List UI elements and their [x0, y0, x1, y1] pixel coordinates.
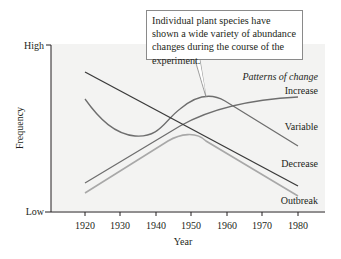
y-axis-label: Frequency [14, 107, 25, 149]
y-tick-label-high: High [24, 40, 44, 51]
callout-annotation: Individual plant species have shown a wi… [146, 10, 303, 60]
legend-variable: Variable [285, 121, 319, 132]
x-tick-label: 1970 [252, 220, 272, 231]
y-tick-label-low: Low [26, 206, 45, 217]
x-ticks [85, 212, 298, 216]
legend-outbreak: Outbreak [281, 195, 318, 206]
x-axis-label: Year [174, 236, 193, 247]
x-tick-label: 1940 [146, 220, 166, 231]
x-tick-label: 1950 [181, 220, 201, 231]
x-tick-label: 1920 [75, 220, 95, 231]
x-tick-label: 1980 [288, 220, 308, 231]
legend-title: Patterns of change [241, 71, 318, 82]
x-tick-label: 1960 [217, 220, 237, 231]
legend-decrease: Decrease [281, 158, 318, 169]
x-tick-label: 1930 [110, 220, 130, 231]
legend-increase: Increase [285, 85, 319, 96]
